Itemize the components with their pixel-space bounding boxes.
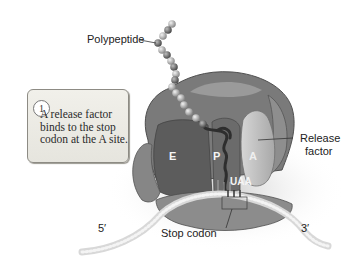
release-factor-label-line2: factor xyxy=(305,145,333,157)
a-site-label: A xyxy=(249,150,257,162)
codon-uaa-label: UAA xyxy=(230,176,252,187)
p-site-label: P xyxy=(213,150,220,162)
diagram-stage: Polypeptide Release factor Stop codon 5′… xyxy=(0,0,358,267)
five-prime-label: 5′ xyxy=(98,222,106,234)
three-prime-label: 3′ xyxy=(301,222,309,234)
polypeptide-label: Polypeptide xyxy=(87,33,145,45)
step-description: A release factor binds to the stop codon… xyxy=(40,108,130,146)
stop-codon-label: Stop codon xyxy=(161,227,217,239)
release-factor xyxy=(241,111,275,186)
e-site-label: E xyxy=(169,150,176,162)
e-site-pocket xyxy=(154,120,212,198)
release-factor-label-line1: Release xyxy=(300,132,340,144)
